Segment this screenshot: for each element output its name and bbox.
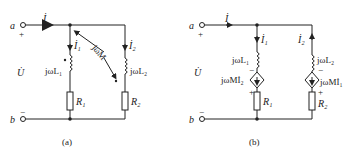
- inductor-l1: [257, 52, 259, 72]
- label-plus: +: [198, 29, 203, 39]
- label-current-1: İ₁: [73, 40, 81, 51]
- label-r1: R₁: [262, 96, 273, 107]
- label-b: b: [10, 114, 15, 125]
- dot-l1: [64, 59, 66, 61]
- label-b: b: [189, 114, 194, 125]
- label-current: İ: [42, 13, 47, 24]
- label-inductor-1: jωL₁: [231, 55, 249, 65]
- junction-top: [68, 23, 72, 27]
- label-a: a: [10, 20, 15, 31]
- label-voltage: U̇: [194, 67, 202, 78]
- resistor-r2: [309, 92, 315, 110]
- source-2-minus: −: [318, 65, 323, 75]
- label-r2: R₂: [130, 96, 141, 107]
- dot-l2: [115, 80, 117, 82]
- resistor-r2: [122, 92, 128, 110]
- panel-a: [21, 23, 129, 122]
- junction-bottom: [68, 117, 72, 121]
- label-source-2: jωMİ₁: [319, 77, 343, 87]
- inductor-l2: [125, 58, 127, 92]
- source-1-minus: −: [249, 65, 254, 75]
- inductor-l1: [70, 55, 72, 92]
- source-1-plus: +: [249, 87, 254, 97]
- label-r1: R₁: [75, 96, 86, 107]
- label-minus: −: [199, 107, 204, 117]
- source-2-plus: +: [318, 87, 323, 97]
- bottom-wire: [26, 110, 126, 119]
- circuit-diagrams: a + b − İ İ₁ İ₂ U̇ jωL₁ jωL₂ jωM R₁ R₂ (…: [0, 0, 356, 157]
- resistor-r1: [67, 92, 73, 110]
- label-mutual: jωM: [90, 42, 109, 62]
- mutual-arrow-down: [104, 58, 115, 77]
- terminal-b-node: [21, 117, 26, 122]
- caption-a: (a): [62, 137, 72, 147]
- label-inductor-2: jωL₂: [316, 55, 334, 65]
- caption-b: (b): [249, 137, 260, 147]
- label-inductor-1: jωL₁: [44, 66, 62, 76]
- label-r2: R₂: [317, 98, 328, 109]
- label-current-2: İ₂: [128, 40, 136, 51]
- label-current: İ: [224, 13, 229, 24]
- label-inductor-2: jωL₂: [129, 66, 147, 76]
- label-voltage: U̇: [17, 67, 25, 78]
- resistor-r1: [254, 92, 260, 110]
- label-current-2: İ₂: [297, 34, 305, 45]
- label-source-1: jωMİ₂: [220, 75, 244, 85]
- terminal-a-node: [21, 23, 26, 28]
- label-plus: +: [19, 29, 24, 39]
- label-minus: −: [20, 107, 25, 117]
- label-current-1: İ₁: [260, 34, 268, 45]
- label-a: a: [189, 20, 194, 31]
- inductor-l2: [312, 55, 314, 72]
